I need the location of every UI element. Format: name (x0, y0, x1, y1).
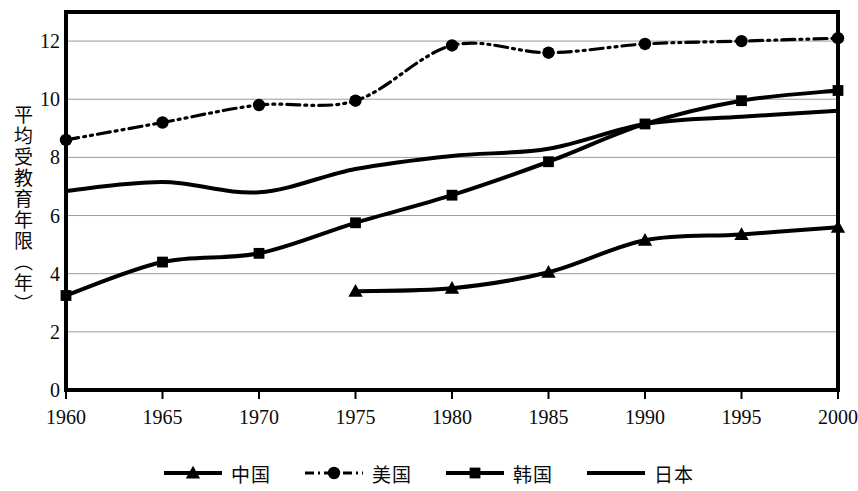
legend-swatch-美国 (303, 463, 365, 483)
x-tick-label-1960: 1960 (46, 406, 86, 429)
legend-label-美国: 美国 (372, 460, 412, 487)
legend-item-中国[interactable]: 中国 (162, 460, 271, 487)
series-line-日本 (66, 111, 838, 193)
legend-swatch-韩国 (444, 463, 506, 483)
data-point-美国-2000 (832, 32, 844, 44)
legend-label-日本: 日本 (654, 460, 694, 487)
data-point-美国-1965 (156, 116, 168, 128)
x-tick-label-2000: 2000 (818, 406, 858, 429)
y-tick-label-2: 2 (14, 320, 60, 343)
y-tick-label-8: 8 (14, 146, 60, 169)
legend-label-中国: 中国 (231, 460, 271, 487)
legend-item-日本[interactable]: 日本 (585, 460, 694, 487)
x-tick-label-1980: 1980 (432, 406, 472, 429)
data-point-美国-1995 (735, 35, 747, 47)
series-日本 (66, 111, 838, 193)
series-中国 (348, 220, 845, 297)
x-tick-label-1995: 1995 (722, 406, 762, 429)
legend-square-marker-韩国 (470, 468, 481, 479)
data-point-韩国-1980 (447, 190, 458, 201)
legend-swatch-日本 (585, 463, 647, 483)
data-point-韩国-1975 (350, 217, 361, 228)
y-tick-label-10: 10 (14, 88, 60, 111)
y-tick-label-0: 0 (14, 379, 60, 402)
data-point-韩国-1970 (254, 248, 265, 259)
data-point-韩国-1960 (61, 290, 72, 301)
x-tick-label-1970: 1970 (239, 406, 279, 429)
legend-label-韩国: 韩国 (513, 460, 553, 487)
data-point-美国-1990 (639, 38, 651, 50)
series-line-中国 (356, 227, 839, 291)
y-tick-label-6: 6 (14, 204, 60, 227)
data-point-韩国-1965 (157, 257, 168, 268)
y-tick-label-12: 12 (14, 30, 60, 53)
x-tick-label-1985: 1985 (529, 406, 569, 429)
legend-item-韩国[interactable]: 韩国 (444, 460, 553, 487)
data-point-美国-1970 (253, 99, 265, 111)
data-point-美国-1980 (446, 39, 458, 51)
series-line-美国 (66, 38, 838, 140)
data-point-韩国-2000 (833, 85, 844, 96)
chart-legend: 中国美国韩国日本 (0, 455, 856, 491)
plot-frame (66, 12, 838, 390)
data-point-韩国-1985 (543, 156, 554, 167)
y-tick-label-4: 4 (14, 262, 60, 285)
x-tick-label-1965: 1965 (143, 406, 183, 429)
data-point-美国-1975 (349, 94, 361, 106)
series-美国 (60, 32, 844, 146)
data-point-美国-1985 (542, 47, 554, 59)
legend-swatch-中国 (162, 463, 224, 483)
x-axis-tick-labels: 196019651970197519801985199019952000 (0, 400, 856, 430)
data-point-韩国-1995 (736, 95, 747, 106)
data-point-美国-1960 (60, 134, 72, 146)
x-tick-label-1975: 1975 (336, 406, 376, 429)
legend-item-美国[interactable]: 美国 (303, 460, 412, 487)
x-tick-label-1990: 1990 (625, 406, 665, 429)
legend-circle-marker-美国 (328, 467, 340, 479)
